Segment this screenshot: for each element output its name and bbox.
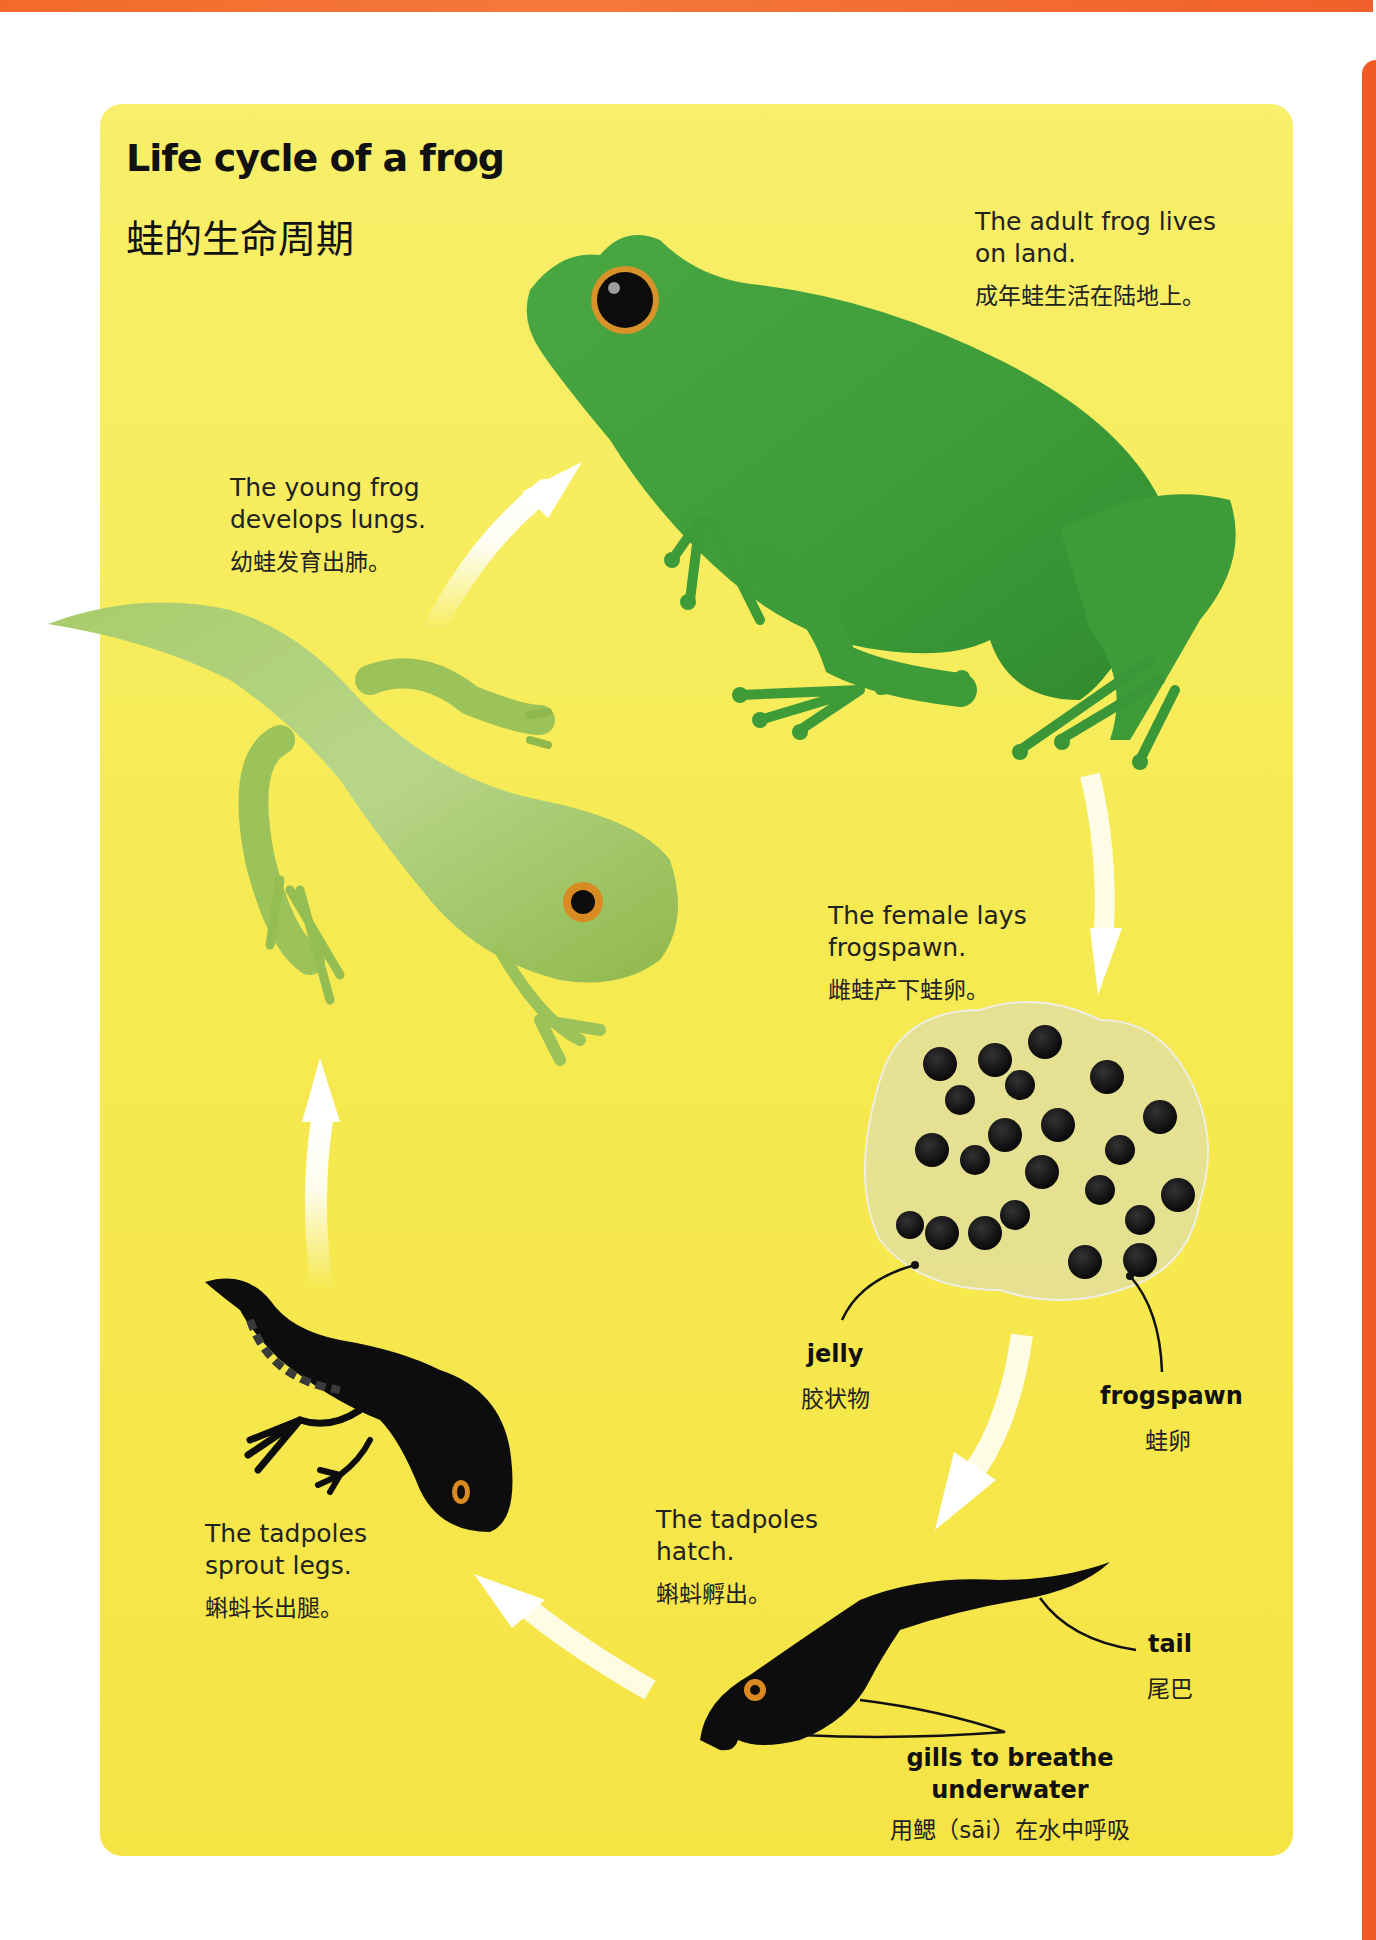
jelly-pointer [842, 1261, 919, 1320]
label-jelly-zh: 胶状物 [790, 1380, 880, 1414]
caption-young: The young frog develops lungs. 幼蛙发育出肺。 [230, 472, 426, 578]
caption-frogspawn-en-2: frogspawn. [828, 933, 966, 962]
label-tail: tail 尾巴 [1140, 1630, 1200, 1704]
label-tail-en: tail [1148, 1630, 1192, 1658]
caption-adult-zh: 成年蛙生活在陆地上。 [975, 280, 1216, 312]
young-frog-icon [48, 603, 678, 1060]
legged-tadpole-icon [205, 1279, 513, 1532]
caption-young-zh: 幼蛙发育出肺。 [230, 546, 426, 578]
label-gills-en-1: gills to breathe [906, 1744, 1113, 1772]
caption-young-en-2: develops lungs. [230, 505, 426, 534]
page-title-en: Life cycle of a frog [126, 136, 504, 180]
caption-hatch-zh: 蝌蚪孵出。 [656, 1578, 818, 1610]
caption-adult-en-1: The adult frog lives [975, 207, 1216, 236]
arrow-legs-to-young [302, 1058, 340, 1290]
tail-pointer [1040, 1598, 1136, 1650]
arrow-adult-to-frogspawn [1090, 775, 1122, 995]
label-jelly: jelly 胶状物 [790, 1340, 880, 1414]
label-tail-zh: 尾巴 [1140, 1670, 1200, 1704]
caption-adult: The adult frog lives on land. 成年蛙生活在陆地上。 [975, 206, 1216, 312]
caption-legs-zh: 蝌蚪长出腿。 [205, 1592, 367, 1624]
caption-frogspawn: The female lays frogspawn. 雌蛙产下蛙卵。 [828, 900, 1027, 1006]
adult-frog-icon [527, 235, 1236, 770]
arrow-young-to-adult [432, 462, 582, 632]
caption-adult-en-2: on land. [975, 239, 1076, 268]
label-gills: gills to breathe underwater 用鳃（sāi）在水中呼吸 [870, 1742, 1150, 1846]
label-gills-zh: 用鳃（sāi）在水中呼吸 [870, 1814, 1150, 1846]
caption-legs: The tadpoles sprout legs. 蝌蚪长出腿。 [205, 1518, 367, 1624]
label-frogspawn: frogspawn 蛙卵 [1100, 1382, 1235, 1456]
arrow-frogspawn-to-hatch [935, 1335, 1022, 1530]
frogspawn-icon [865, 1002, 1208, 1300]
caption-hatch-en-1: The tadpoles [656, 1505, 818, 1534]
page-title-zh: 蛙的生命周期 [126, 208, 354, 263]
label-frogspawn-en: frogspawn [1100, 1382, 1243, 1410]
caption-young-en-1: The young frog [230, 473, 420, 502]
caption-legs-en-2: sprout legs. [205, 1551, 352, 1580]
caption-legs-en-1: The tadpoles [205, 1519, 367, 1548]
caption-frogspawn-en-1: The female lays [828, 901, 1027, 930]
arrow-hatch-to-legs [474, 1574, 650, 1690]
label-jelly-en: jelly [807, 1340, 864, 1368]
label-gills-en-2: underwater [931, 1776, 1088, 1804]
caption-frogspawn-zh: 雌蛙产下蛙卵。 [828, 974, 1027, 1006]
label-frogspawn-zh: 蛙卵 [1100, 1422, 1235, 1456]
caption-hatch: The tadpoles hatch. 蝌蚪孵出。 [656, 1504, 818, 1610]
caption-hatch-en-2: hatch. [656, 1537, 735, 1566]
